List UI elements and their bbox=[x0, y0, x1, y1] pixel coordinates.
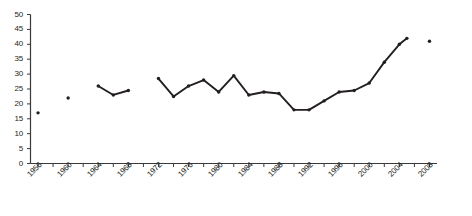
data-line-segment bbox=[158, 38, 406, 110]
data-point-marker bbox=[97, 84, 100, 87]
y-axis-tick-label: 50 bbox=[1, 11, 23, 19]
data-point-marker bbox=[383, 60, 386, 63]
data-point-marker bbox=[352, 89, 355, 92]
data-point-marker bbox=[368, 81, 371, 84]
y-axis-tick-label: 30 bbox=[1, 70, 23, 78]
y-axis-tick-label: 25 bbox=[1, 85, 23, 93]
y-axis-tick-label: 15 bbox=[1, 115, 23, 123]
data-point-marker bbox=[112, 93, 115, 96]
data-point-marker bbox=[322, 99, 325, 102]
data-point-marker bbox=[398, 43, 401, 46]
y-axis-tick-label: 45 bbox=[1, 25, 23, 33]
chart-container: 05101520253035404550 1956196019641968197… bbox=[0, 0, 472, 216]
data-point-marker bbox=[157, 77, 160, 80]
data-point-marker bbox=[217, 90, 220, 93]
data-point-marker bbox=[172, 95, 175, 98]
data-point-marker bbox=[36, 111, 39, 114]
data-point-marker bbox=[277, 92, 280, 95]
data-point-marker bbox=[66, 96, 69, 99]
data-point-marker bbox=[307, 108, 310, 111]
data-point-marker bbox=[187, 84, 190, 87]
data-point-marker bbox=[405, 37, 408, 40]
y-axis-tick-label: 10 bbox=[1, 130, 23, 138]
data-point-marker bbox=[337, 90, 340, 93]
y-axis-tick-label: 0 bbox=[1, 160, 23, 168]
y-axis-tick-label: 35 bbox=[1, 55, 23, 63]
data-point-marker bbox=[232, 74, 235, 77]
y-axis-tick-label: 5 bbox=[1, 145, 23, 153]
data-point-marker bbox=[292, 108, 295, 111]
data-point-marker bbox=[247, 93, 250, 96]
data-point-marker bbox=[262, 90, 265, 93]
line-chart-plot bbox=[0, 0, 472, 216]
data-point-marker bbox=[202, 78, 205, 81]
y-axis-tick-label: 40 bbox=[1, 40, 23, 48]
data-point-marker bbox=[428, 40, 431, 43]
y-axis-tick-label: 20 bbox=[1, 100, 23, 108]
data-point-marker bbox=[127, 89, 130, 92]
